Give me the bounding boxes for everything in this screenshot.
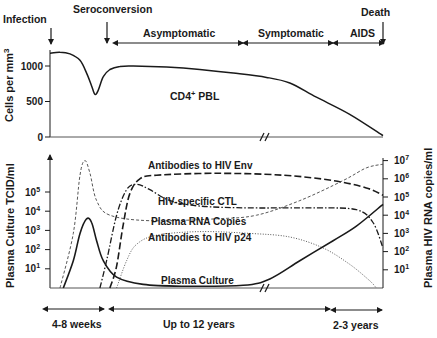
left-y-tick-label: 103 — [25, 224, 40, 236]
series-label-plasma-culture: Plasma Culture — [161, 275, 234, 286]
left-y-tick-label: 102 — [25, 243, 40, 255]
bottom-left-y-axis-label: Plasma Culture TCID/ml — [4, 163, 16, 288]
right-y-tick-label: 103 — [394, 227, 409, 239]
cd4-series-label: CD4+ PBL — [170, 89, 220, 102]
phase-label-asymptomatic: Asymptomatic — [143, 27, 216, 39]
series-label-env-antibodies: Antibodies to HIV Env — [148, 160, 253, 171]
right-y-tick-label: 102 — [394, 245, 409, 257]
left-y-tick-label: 104 — [25, 205, 40, 217]
phase-label-seroconversion: Seroconversion — [73, 3, 152, 15]
top-y-axis-label: Cells per mm3 — [2, 48, 15, 122]
right-y-tick-label: 107 — [394, 154, 409, 166]
series-label-p24-antibodies: Antibodies to HIV p24 — [148, 232, 252, 243]
right-y-tick-label: 101 — [394, 263, 409, 275]
series-label-rna: Plasma RNA Copies — [151, 216, 247, 227]
left-y-tick-label: 101 — [25, 262, 40, 274]
chart-canvas: Infection Seroconversion Asymptomatic Sy… — [0, 0, 437, 338]
top-y-tick-label: 1000 — [21, 61, 44, 72]
duration-label-early: 4-8 weeks — [52, 318, 102, 330]
top-y-ticks: 05001000 — [21, 61, 50, 143]
top-y-tick-label: 500 — [26, 96, 43, 107]
right-y-tick-label: 106 — [394, 172, 409, 184]
phase-label-death: Death — [361, 6, 390, 18]
hiv-natural-history-figure: Infection Seroconversion Asymptomatic Sy… — [0, 0, 437, 338]
phase-label-symptomatic: Symptomatic — [258, 27, 324, 39]
right-y-tick-label: 105 — [394, 191, 409, 203]
bottom-right-y-axis-label: Plasma HIV RNA copies/ml — [422, 148, 434, 288]
top-y-tick-label: 0 — [37, 132, 43, 143]
duration-label-late: 2-3 years — [333, 319, 379, 331]
bottom-left-y-ticks: 101102103104105 — [25, 186, 50, 275]
series-label-ctl: HIV-specific CTL — [158, 196, 237, 207]
phase-label-infection: Infection — [3, 13, 47, 25]
right-y-tick-label: 104 — [394, 209, 409, 221]
left-y-tick-label: 105 — [25, 186, 40, 198]
phase-label-aids: AIDS — [350, 27, 375, 39]
duration-label-middle: Up to 12 years — [163, 318, 235, 330]
bottom-right-y-ticks: 101102103104105106107 — [383, 154, 409, 275]
